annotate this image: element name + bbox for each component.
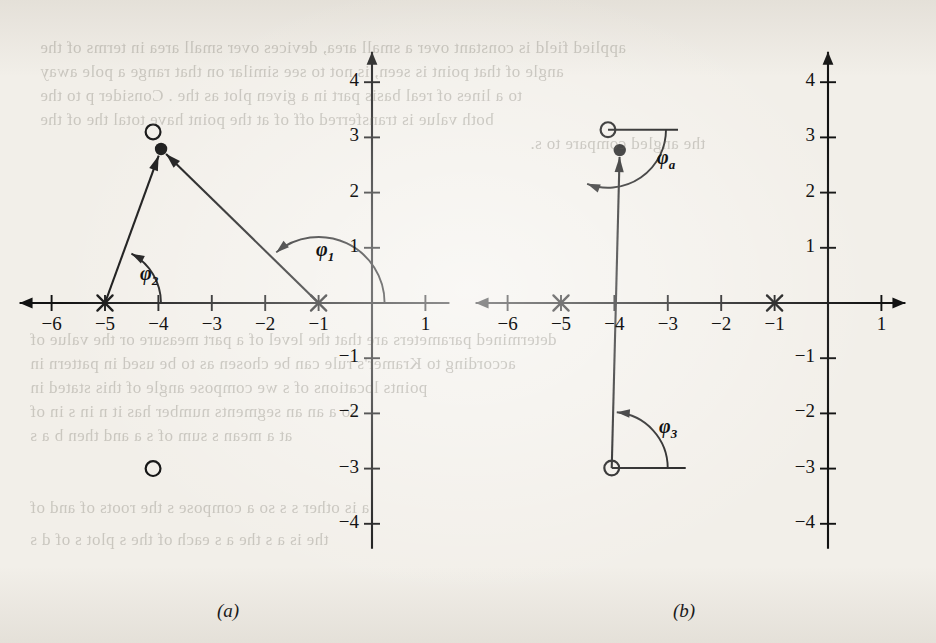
y-tick-label-b-1: 3 (806, 124, 816, 146)
y-tick-label-b-6: −3 (795, 456, 815, 478)
x-axis-left-arrowhead-a (20, 298, 33, 309)
vector-arrowhead-a-0 (149, 156, 158, 172)
y-tick-label-b-5: −2 (795, 400, 815, 422)
y-tick-label-b-4: −1 (795, 345, 815, 367)
x-tick-label-a-1: −5 (95, 313, 115, 335)
y-axis-up-arrowhead-b (823, 52, 834, 65)
x-tick-label-b-1: −5 (551, 313, 571, 335)
y-tick-label-a-1: 3 (350, 124, 360, 146)
phi-label-a-0: φ1 (316, 238, 334, 265)
zero-marker-a-0 (146, 124, 161, 139)
y-axis-up-arrowhead-a (367, 52, 378, 65)
x-tick-label-a-5: −1 (308, 313, 328, 335)
x-tick-label-b-2: −4 (604, 313, 624, 335)
x-tick-label-a-0: −6 (41, 313, 61, 335)
x-tick-label-a-2: −4 (148, 313, 168, 335)
test-point-marker-b (614, 144, 626, 156)
figure-canvas (0, 0, 936, 643)
phi-label-b-1: φ3 (659, 415, 677, 442)
y-tick-label-b-2: 2 (806, 180, 816, 202)
x-tick-label-a-4: −2 (255, 313, 275, 335)
x-axis-right-arrowhead-b (892, 298, 905, 309)
x-tick-label-a-6: 1 (421, 313, 431, 335)
angle-arc-b-0 (587, 130, 666, 188)
phi-label-b-0: φa (657, 146, 675, 173)
vector-line-a-1 (166, 154, 319, 303)
phi-label-a-1: φ2 (140, 262, 158, 289)
y-tick-label-a-4: −1 (339, 345, 359, 367)
x-tick-label-b-4: −2 (711, 313, 731, 335)
zero-marker-a-1 (146, 461, 161, 476)
vector-arrowhead-b-0 (615, 157, 624, 172)
angle-arrowhead-a-0 (276, 241, 289, 253)
x-tick-label-b-3: −3 (658, 313, 678, 335)
y-tick-label-a-3: 1 (350, 235, 360, 257)
y-tick-label-a-0: 4 (350, 69, 360, 91)
x-tick-label-b-0: −6 (497, 313, 517, 335)
y-tick-label-b-7: −4 (795, 511, 815, 533)
angle-arrowhead-b-0 (587, 184, 601, 193)
y-tick-label-b-0: 4 (806, 69, 816, 91)
panel-caption-a: (a) (217, 600, 239, 622)
y-tick-label-a-7: −4 (339, 511, 359, 533)
x-tick-label-b-6: 1 (877, 313, 887, 335)
root-locus-figure: applied field is constant over a small a… (0, 0, 936, 643)
y-tick-label-b-3: 1 (806, 235, 816, 257)
y-tick-label-a-2: 2 (350, 180, 360, 202)
panel-caption-b: (b) (673, 600, 695, 622)
x-tick-label-a-3: −3 (202, 313, 222, 335)
x-axis-left-arrowhead-b (476, 298, 489, 309)
y-tick-label-a-6: −3 (339, 456, 359, 478)
y-tick-label-a-5: −2 (339, 400, 359, 422)
test-point-marker-a (155, 143, 167, 155)
x-tick-label-b-5: −1 (764, 313, 784, 335)
